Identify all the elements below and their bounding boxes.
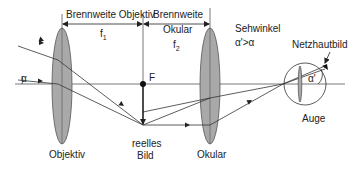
- label-real-image-1: reelles: [132, 138, 161, 149]
- label-f2: f2: [173, 39, 180, 52]
- label-focal-objective: Brennweite Objektiv: [66, 9, 155, 20]
- retina-pointer: [325, 52, 330, 63]
- label-ocular: Okular: [197, 149, 227, 160]
- label-f1: f1: [100, 28, 107, 41]
- label-objective: Objektiv: [49, 149, 85, 160]
- label-real-image-2: Bild: [137, 150, 154, 161]
- label-retina-image: Netzhautbild: [292, 39, 348, 50]
- label-focal-ocular-1: Brennweite: [153, 9, 203, 20]
- label-viewing-relation: α'>α: [235, 37, 255, 48]
- ocular-lens: [200, 28, 220, 144]
- label-viewing-angle: Sehwinkel: [235, 23, 281, 34]
- label-focal-point: F: [149, 72, 155, 83]
- label-focal-ocular-2: Okular: [163, 24, 193, 35]
- label-alpha-prime: α': [308, 73, 316, 84]
- label-eye: Auge: [302, 113, 326, 124]
- label-alpha: α: [21, 73, 27, 84]
